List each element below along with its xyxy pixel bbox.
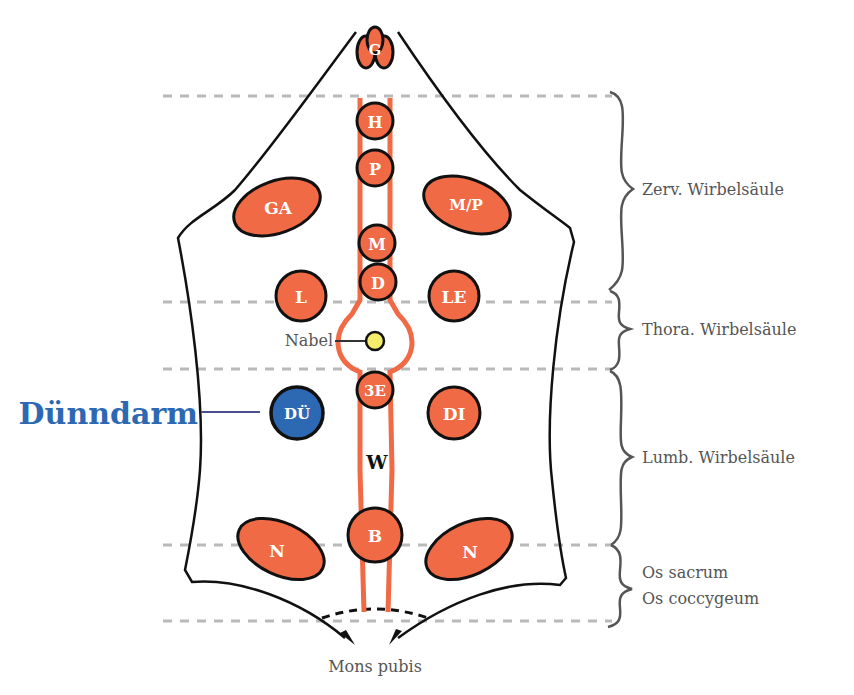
organ-label: DÜ xyxy=(284,404,310,423)
coccyx-label: Os coccygeum xyxy=(642,589,759,608)
duenndarm-callout: Dünndarm xyxy=(19,396,260,431)
organ-G[interactable]: G xyxy=(357,27,393,68)
brace-lumbar-icon xyxy=(610,371,632,545)
organ-DI[interactable]: DI xyxy=(428,387,480,439)
brace-thoracic-icon xyxy=(610,291,630,370)
organ-L[interactable]: L xyxy=(276,271,326,321)
brace-cervical-icon xyxy=(609,92,633,290)
organ-label: LE xyxy=(442,287,467,307)
organ-DU[interactable]: DÜ xyxy=(271,387,323,439)
organ-N-right[interactable]: N xyxy=(416,506,521,592)
organ-GA[interactable]: GA xyxy=(226,167,328,247)
organ-label: M xyxy=(368,235,386,254)
organ-label: P xyxy=(369,160,381,179)
mons-pubis-label: Mons pubis xyxy=(328,657,422,676)
organ-label: DI xyxy=(443,404,466,424)
cervical-spine-label: Zerv. Wirbelsäule xyxy=(642,180,784,199)
organ-label: B xyxy=(368,526,382,546)
organ-B[interactable]: B xyxy=(348,508,402,562)
thoracic-spine-label: Thora. Wirbelsäule xyxy=(642,320,796,339)
organ-P[interactable]: P xyxy=(357,150,393,186)
duenndarm-label: Dünndarm xyxy=(19,396,199,431)
navel-label: Nabel xyxy=(285,331,333,350)
organ-LE[interactable]: LE xyxy=(429,271,479,321)
organ-W-label: W xyxy=(365,451,388,473)
organ-label: N xyxy=(462,542,478,562)
organ-label: 3E xyxy=(364,382,386,400)
arrowhead-left-icon xyxy=(340,630,355,645)
abdomen-diagram: G H P M D GA M/P L LE Nabel xyxy=(0,0,854,695)
organ-label: G xyxy=(369,41,382,59)
brace-sacrum-icon xyxy=(608,545,632,627)
organ-N-left[interactable]: N xyxy=(228,506,333,592)
spine-braces xyxy=(608,92,633,627)
organ-D[interactable]: D xyxy=(360,264,396,300)
organ-label: L xyxy=(295,287,307,307)
organ-label: D xyxy=(371,274,385,293)
organ-M[interactable]: M xyxy=(359,225,395,261)
organ-H[interactable]: H xyxy=(357,103,393,139)
organ-label: GA xyxy=(264,198,293,218)
lumbar-spine-label: Lumb. Wirbelsäule xyxy=(642,448,795,467)
organ-label: H xyxy=(367,113,382,132)
pubic-arc xyxy=(322,609,428,618)
sacrum-label: Os sacrum xyxy=(642,563,728,582)
organ-MP[interactable]: M/P xyxy=(416,165,518,245)
organ-label: M/P xyxy=(449,196,482,214)
organ-label: N xyxy=(269,541,285,561)
navel: Nabel xyxy=(285,331,384,350)
organ-3E[interactable]: 3E xyxy=(357,372,393,408)
